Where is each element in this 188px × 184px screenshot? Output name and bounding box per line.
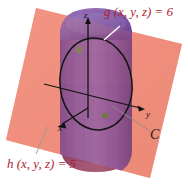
- axis-label-x: x: [58, 124, 62, 133]
- marker-point-lower: [102, 113, 108, 118]
- marker-point-upper: [76, 47, 82, 53]
- axis-label-z: z: [84, 11, 88, 20]
- label-plane-h: h (x, y, z) = 5: [7, 157, 76, 170]
- label-curve-c: C: [150, 128, 159, 142]
- label-surface-g: g (x, y, z) = 6: [104, 5, 173, 18]
- math-figure-3d-cylinder-plane: g (x, y, z) = 6 h (x, y, z) = 5 C z x y: [0, 0, 188, 184]
- axis-label-y: y: [146, 110, 150, 119]
